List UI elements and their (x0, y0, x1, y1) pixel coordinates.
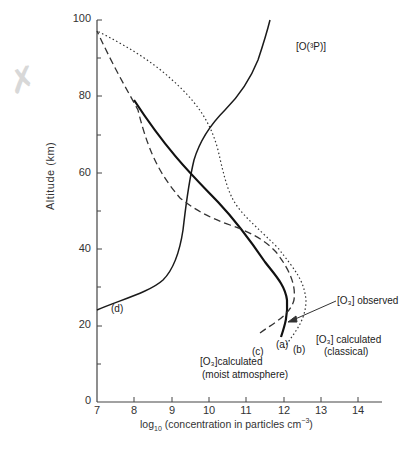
x-tick-label: 11 (236, 404, 256, 416)
label-observed: [O₃] observed (337, 295, 398, 306)
y-tick-label: 80 (67, 89, 91, 101)
x-axis-title: log10 (concentration in particles cm−3) (140, 417, 313, 432)
label-b: (b) (293, 344, 305, 355)
x-ticks (134, 397, 358, 402)
label-classical-1: [O₃] calculated (316, 334, 381, 345)
x-tick-label: 12 (274, 404, 294, 416)
x-tick-label: 13 (311, 404, 331, 416)
y-tick-label: 20 (67, 318, 91, 330)
curve-c-moist (97, 31, 294, 333)
x-tick-label: 10 (199, 404, 219, 416)
x-tick-label: 9 (162, 404, 182, 416)
label-o3p: [O(³P)] (296, 41, 326, 52)
x-tick-label: 8 (124, 404, 144, 416)
label-moist-1: [O₃]calculated (200, 356, 262, 367)
curve-b-classical (97, 31, 306, 348)
curve-a-observed (134, 100, 287, 337)
x-tick-label: 7 (87, 404, 107, 416)
label-a: (a) (276, 339, 288, 350)
label-d: (d) (111, 303, 123, 314)
y-ticks (97, 20, 102, 364)
y-tick-label: 100 (67, 12, 91, 24)
label-moist-2: (moist atmosphere) (202, 369, 288, 380)
y-axis-title: Altitude (km) (44, 142, 56, 210)
y-tick-label: 60 (67, 166, 91, 178)
observed-arrow (288, 301, 336, 322)
chart-plot (0, 0, 407, 449)
label-classical-2: (classical) (324, 346, 368, 357)
x-tick-label: 14 (348, 404, 368, 416)
y-tick-label: 40 (67, 242, 91, 254)
